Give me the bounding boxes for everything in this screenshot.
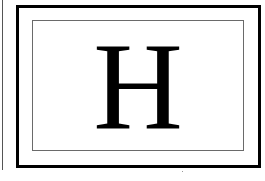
left-edge-rule — [2, 0, 3, 170]
letter-glyph: H — [32, 20, 244, 151]
scan-speck — [182, 171, 183, 172]
